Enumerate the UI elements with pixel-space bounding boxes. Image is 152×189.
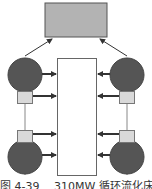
diagram-svg xyxy=(0,0,152,189)
center-box xyxy=(58,59,97,176)
circle-bottom-left xyxy=(8,140,42,174)
arrow-top-right-to-top-box xyxy=(100,39,127,56)
circle-top-right xyxy=(110,58,144,92)
circle-top-left xyxy=(8,58,42,92)
arrow-top-left-to-top-box xyxy=(25,39,52,56)
figure-caption: 图 4-39 310MW 循环流化床锅炉 xyxy=(0,180,152,189)
small-box-bottom-left xyxy=(18,131,33,143)
small-box-top-left xyxy=(18,92,33,104)
circle-bottom-right xyxy=(110,140,144,174)
small-box-top-right xyxy=(120,92,135,104)
top-box xyxy=(45,3,107,37)
small-box-bottom-right xyxy=(120,131,135,143)
diagram-canvas: 图 4-39 310MW 循环流化床锅炉 xyxy=(0,0,152,189)
